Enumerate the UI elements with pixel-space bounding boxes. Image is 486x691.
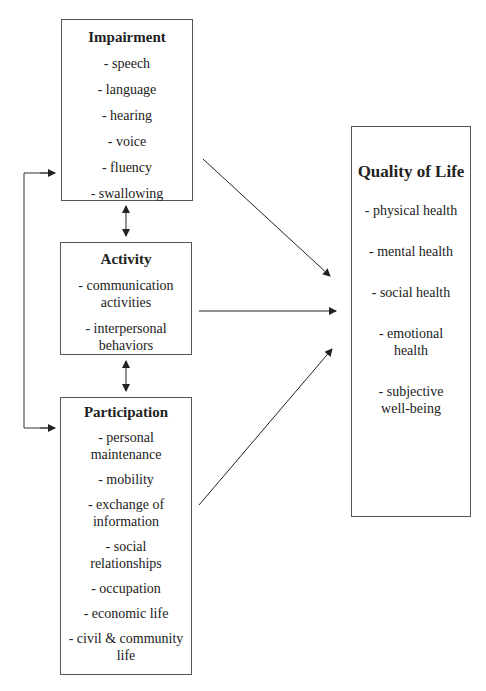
impairment-item: - speech bbox=[62, 55, 192, 72]
impairment-box: Impairment - speech - language - hearing… bbox=[61, 19, 193, 201]
participation-item: - social relationships bbox=[61, 538, 191, 572]
participation-item: - personal maintenance bbox=[61, 429, 191, 463]
qol-item: - subjective well-being bbox=[352, 383, 470, 417]
qol-item: - physical health bbox=[352, 202, 470, 219]
activity-box: Activity - communication activities - in… bbox=[60, 242, 192, 355]
quality-of-life-box: Quality of Life - physical health - ment… bbox=[351, 126, 471, 517]
activity-title: Activity bbox=[61, 251, 191, 268]
impairment-item: - fluency bbox=[62, 159, 192, 176]
participation-item: - occupation bbox=[61, 580, 191, 597]
impairment-item: - language bbox=[62, 81, 192, 98]
impairment-title: Impairment bbox=[62, 29, 192, 46]
activity-item: - interpersonal behaviors bbox=[61, 320, 191, 354]
impairment-item: - voice bbox=[62, 133, 192, 150]
impairment-item: - hearing bbox=[62, 107, 192, 124]
activity-item: - communication activities bbox=[61, 277, 191, 311]
participation-item: - exchange of information bbox=[61, 496, 191, 530]
participation-item: - civil & community life bbox=[61, 630, 191, 664]
impairment-to-qol-arrow bbox=[203, 159, 330, 276]
qol-item: - social health bbox=[352, 284, 470, 301]
qol-item: - mental health bbox=[352, 243, 470, 260]
qol-item: - emotional health bbox=[352, 325, 470, 359]
participation-box: Participation - personal maintenance - m… bbox=[60, 397, 192, 675]
quality-of-life-title: Quality of Life bbox=[352, 163, 470, 180]
participation-to-qol-arrow bbox=[199, 349, 332, 505]
participation-title: Participation bbox=[61, 404, 191, 421]
participation-item: - mobility bbox=[61, 471, 191, 488]
impairment-participation-bracket-arrow bbox=[24, 173, 55, 428]
participation-item: - economic life bbox=[61, 605, 191, 622]
impairment-item: - swallowing bbox=[62, 185, 192, 202]
